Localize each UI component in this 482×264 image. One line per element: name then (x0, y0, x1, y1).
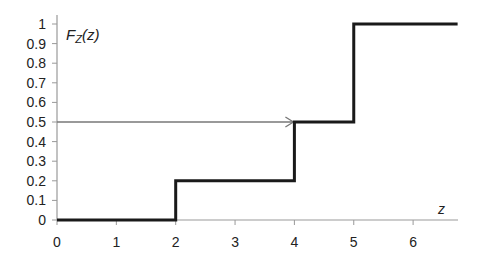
x-tick-label: 0 (53, 234, 61, 250)
y-tick-label: 0.1 (27, 192, 47, 208)
y-tick-label: 0.9 (27, 36, 47, 52)
y-axis-label: FZ(z) (66, 26, 99, 45)
x-tick-label: 1 (112, 234, 120, 250)
x-tick-label: 4 (291, 234, 299, 250)
y-tick-label: 0.2 (27, 173, 47, 189)
y-tick-label: 0.8 (27, 55, 47, 71)
x-tick-label: 5 (350, 234, 358, 250)
x-tick-label: 2 (172, 234, 180, 250)
y-tick-label: 1 (38, 16, 46, 32)
annotations (57, 117, 293, 127)
cdf-step-chart: 00.10.20.30.40.50.60.70.80.91 0123456 FZ… (0, 0, 482, 264)
y-tick-label: 0.3 (27, 153, 47, 169)
y-tick-label: 0.6 (27, 94, 47, 110)
x-tick-label: 6 (409, 234, 417, 250)
x-axis-label: z (437, 201, 445, 217)
y-tick-label: 0.7 (27, 75, 47, 91)
y-tick-label: 0.4 (27, 134, 47, 150)
x-axis-ticks: 0123456 (53, 220, 417, 250)
y-tick-label: 0.5 (27, 114, 47, 130)
x-tick-label: 3 (231, 234, 239, 250)
y-tick-label: 0 (38, 212, 46, 228)
y-axis-ticks: 00.10.20.30.40.50.60.70.80.91 (27, 16, 57, 228)
